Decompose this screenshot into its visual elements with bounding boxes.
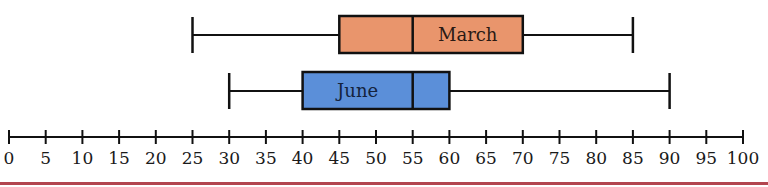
box-label: March (438, 24, 498, 45)
number-line-axis: 0510152025303540455055606570758085909510… (4, 130, 760, 168)
axis-tick-label: 90 (659, 148, 681, 168)
box-march: March (193, 16, 633, 53)
box-plot-chart: MarchJune 051015202530354045505560657075… (0, 0, 768, 187)
axis-tick-label: 100 (727, 148, 759, 168)
axis-tick-label: 10 (72, 148, 94, 168)
axis-tick-label: 85 (622, 148, 644, 168)
axis-tick-label: 20 (145, 148, 167, 168)
axis-tick-label: 0 (4, 148, 15, 168)
bottom-divider (0, 182, 768, 185)
axis-tick-label: 65 (475, 148, 497, 168)
axis-tick-label: 60 (439, 148, 461, 168)
axis-tick-label: 15 (108, 148, 130, 168)
axis-tick-label: 40 (292, 148, 314, 168)
box-plot-series: MarchJune (193, 16, 670, 109)
axis-tick-label: 50 (365, 148, 387, 168)
axis-tick-label: 70 (512, 148, 534, 168)
axis-tick-label: 35 (255, 148, 277, 168)
axis-tick-label: 75 (549, 148, 571, 168)
axis-tick-label: 5 (40, 148, 51, 168)
axis-tick-label: 95 (695, 148, 717, 168)
box-june: June (229, 72, 669, 109)
axis-tick-label: 25 (182, 148, 204, 168)
axis-tick-label: 55 (402, 148, 424, 168)
axis-tick-label: 45 (328, 148, 350, 168)
axis-tick-label: 30 (218, 148, 240, 168)
axis-tick-label: 80 (585, 148, 607, 168)
box-label: June (335, 80, 378, 101)
